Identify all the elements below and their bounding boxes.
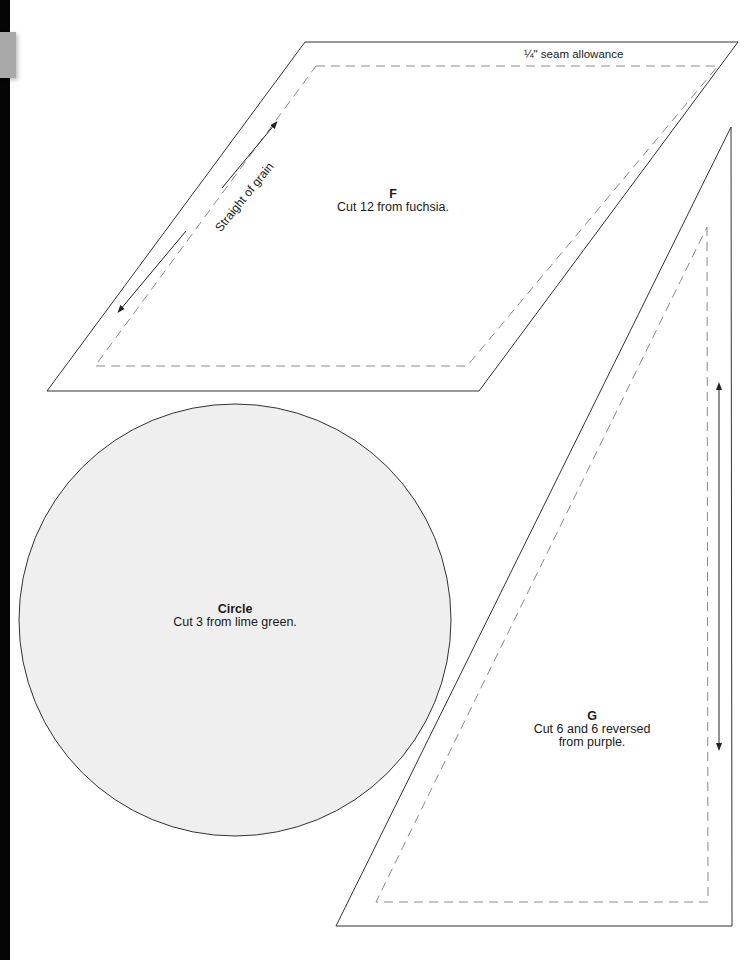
pattern-artwork xyxy=(0,0,751,960)
circle-instruction: Cut 3 from lime green. xyxy=(160,616,310,629)
seam-allowance-label: ¼" seam allowance xyxy=(524,48,623,60)
piece-f-label: F Cut 12 from fuchsia. xyxy=(318,188,468,214)
piece-g-instruction-2: from purple. xyxy=(517,736,667,749)
piece-f-instruction: Cut 12 from fuchsia. xyxy=(318,201,468,214)
piece-g-label: G Cut 6 and 6 reversed from purple. xyxy=(517,710,667,749)
circle-label: Circle Cut 3 from lime green. xyxy=(160,603,310,629)
